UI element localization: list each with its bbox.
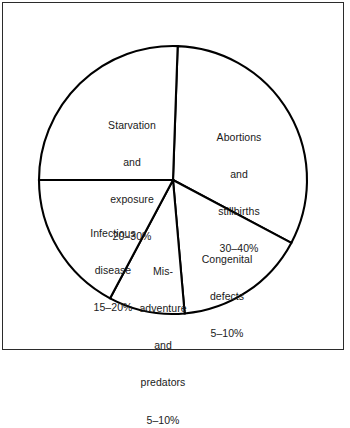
label-line: stillbirths bbox=[186, 205, 292, 217]
label-line: Abortions bbox=[186, 131, 292, 143]
label-line: Infectious bbox=[58, 227, 168, 239]
label-line: defects bbox=[182, 290, 272, 302]
label-line: and bbox=[76, 156, 188, 168]
label-percent: 5–10% bbox=[182, 327, 272, 339]
label-line: predators bbox=[124, 376, 202, 388]
label-line: and bbox=[186, 168, 292, 180]
label-line: Congenital bbox=[182, 253, 272, 265]
pie-label-congenital-defects: Congenital defects 5–10% bbox=[182, 228, 272, 364]
label-line: Starvation bbox=[76, 119, 188, 131]
label-percent: 5–10% bbox=[124, 414, 202, 426]
